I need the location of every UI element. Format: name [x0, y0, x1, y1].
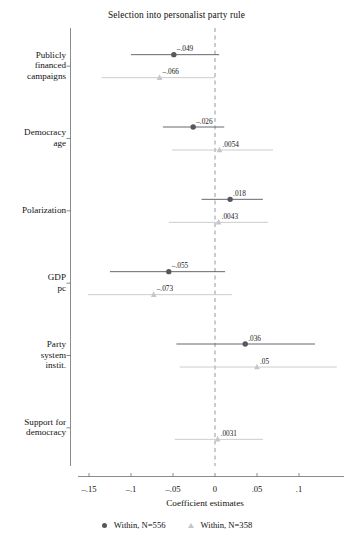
category-label-line: instit. — [0, 360, 66, 371]
category-label-line: financed — [0, 60, 66, 71]
category-label-line: campaigns — [0, 71, 66, 82]
legend-item: Within, N=556 — [101, 520, 166, 530]
data-point-marker-triangle — [215, 436, 221, 442]
x-tick-label: 0 — [195, 484, 235, 494]
series-group — [88, 52, 337, 442]
category-label-line: system — [0, 350, 66, 361]
x-tick-label: .1 — [279, 484, 319, 494]
data-point-marker-circle — [243, 341, 248, 346]
data-point-marker-triangle — [217, 147, 223, 153]
legend-item: Within, N=358 — [188, 520, 253, 530]
data-point-value-label: .0054 — [223, 140, 239, 149]
category-label-line: Support for — [0, 417, 66, 428]
x-tick-label: –.15 — [69, 484, 109, 494]
axis-group — [67, 28, 345, 477]
data-point-marker-circle — [171, 52, 176, 57]
data-point-value-label: .0031 — [221, 429, 237, 438]
x-tick-label: –.05 — [153, 484, 193, 494]
data-point-marker-circle — [166, 269, 171, 274]
data-point-marker-triangle — [216, 219, 222, 225]
legend-label: Within, N=358 — [201, 520, 253, 530]
category-label-line: democracy — [0, 427, 66, 438]
legend-triangle-icon — [188, 521, 197, 530]
data-point-marker-triangle — [157, 74, 163, 80]
data-point-value-label: –.055 — [172, 261, 188, 270]
data-point-value-label: .036 — [248, 334, 261, 343]
data-point-value-label: –.026 — [196, 117, 212, 126]
category-label: Polarization — [0, 205, 66, 216]
data-point-value-label: .05 — [260, 357, 269, 366]
category-label: Support fordemocracy — [0, 417, 66, 438]
category-label-line: GDP — [0, 272, 66, 283]
category-label-line: Democracy — [0, 127, 66, 138]
x-tick-label: .05 — [237, 484, 277, 494]
x-axis-title: Coefficient estimates — [70, 498, 340, 508]
category-label: Publiclyfinancedcampaigns — [0, 50, 66, 82]
data-point-value-label: –.049 — [177, 44, 193, 53]
category-label-line: pc — [0, 283, 66, 294]
coefficient-plot-figure: Selection into personalist party rule Pu… — [0, 0, 353, 542]
data-point-value-label: –.073 — [157, 284, 173, 293]
legend-label: Within, N=556 — [114, 520, 166, 530]
data-point-value-label: .0043 — [222, 212, 238, 221]
legend-circle-icon — [101, 521, 110, 530]
data-point-value-label: –.066 — [163, 67, 179, 76]
category-label: Partysysteminstit. — [0, 339, 66, 371]
category-label-line: Party — [0, 339, 66, 350]
data-point-marker-triangle — [254, 364, 260, 370]
data-point-marker-triangle — [151, 291, 157, 297]
data-point-value-label: .018 — [233, 189, 246, 198]
category-label: GDPpc — [0, 272, 66, 293]
category-label-line: Polarization — [0, 205, 66, 216]
category-label-line: age — [0, 138, 66, 149]
category-label: Democracyage — [0, 127, 66, 148]
chart-legend: Within, N=556Within, N=358 — [0, 520, 353, 530]
category-label-line: Publicly — [0, 50, 66, 61]
data-point-marker-circle — [227, 197, 232, 202]
x-tick-label: –.1 — [111, 484, 151, 494]
